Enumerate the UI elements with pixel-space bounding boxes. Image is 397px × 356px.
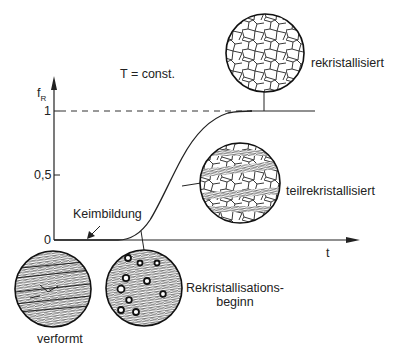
y-axis-arrow-icon <box>51 76 57 90</box>
microstructure-partial-icon <box>200 143 280 223</box>
microstructure-full-icon <box>226 14 304 92</box>
deformed-label: verformt <box>37 332 83 346</box>
nucleation-label: Keimbildung <box>73 207 142 221</box>
partial-connector <box>182 183 201 186</box>
x-axis-arrow-icon <box>346 237 360 243</box>
microstructure-deformed-icon <box>15 251 91 327</box>
ytick-label-1: 1 <box>44 104 51 118</box>
onset-label: Rekristallisations- beginn <box>186 281 284 309</box>
partial-label: teilrekristallisiert <box>286 184 375 198</box>
onset-label-line2: beginn <box>186 295 284 309</box>
full-label: rekristallisiert <box>311 56 384 70</box>
onset-label-line1: Rekristallisations- <box>186 281 284 295</box>
x-axis-label: t <box>326 246 329 260</box>
condition-label: T = const. <box>120 67 175 81</box>
y-axis-subscript: R <box>40 94 46 103</box>
microstructure-onset-icon <box>106 250 182 326</box>
ytick-label-05: 0,5 <box>34 168 51 182</box>
y-axis-label: fR <box>37 86 46 106</box>
ytick-label-0: 0 <box>44 233 51 247</box>
